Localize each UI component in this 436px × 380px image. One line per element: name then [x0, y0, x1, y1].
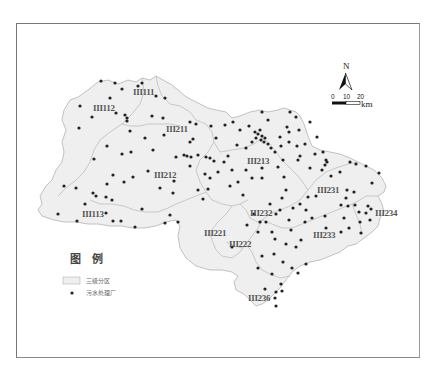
- zone-label: III212: [154, 170, 177, 180]
- zone-label: III211: [166, 124, 189, 134]
- zone-label: III111: [133, 87, 155, 97]
- zone-label: III221: [204, 228, 227, 238]
- north-arrow: N: [339, 61, 352, 90]
- legend-zone-swatch: [63, 277, 80, 284]
- legend-plant-icon: [70, 291, 73, 294]
- legend-zone-label: 三级分区: [86, 277, 110, 285]
- map-canvas: III111 III112 III211 III212 III213 III11…: [0, 0, 436, 380]
- zone-label: III213: [247, 156, 270, 166]
- north-arrow-icon-outline: [346, 73, 353, 90]
- scale-bar-filled: [332, 102, 346, 105]
- legend-plant-label: 污水处理厂: [86, 289, 116, 297]
- zone-label: III222: [229, 239, 252, 249]
- zone-label: III234: [375, 208, 398, 218]
- zone-label: III233: [313, 230, 336, 240]
- scale-bar: 0 10 20 km: [331, 93, 373, 109]
- scale-tick-label: 10: [343, 93, 351, 100]
- zone-label: III232: [250, 208, 273, 218]
- north-label: N: [343, 61, 350, 71]
- north-arrow-icon: [339, 73, 346, 90]
- zone-label: III113: [82, 209, 105, 219]
- legend-title: 图 例: [70, 252, 103, 266]
- scale-unit: km: [361, 99, 373, 109]
- zone-label: III236: [248, 293, 271, 303]
- scale-bar-empty: [346, 102, 360, 105]
- zone-label: III231: [317, 185, 340, 195]
- legend: 图 例 三级分区 污水处理厂: [63, 252, 116, 297]
- scale-tick-label: 0: [331, 93, 335, 100]
- zone-label: III112: [93, 103, 116, 113]
